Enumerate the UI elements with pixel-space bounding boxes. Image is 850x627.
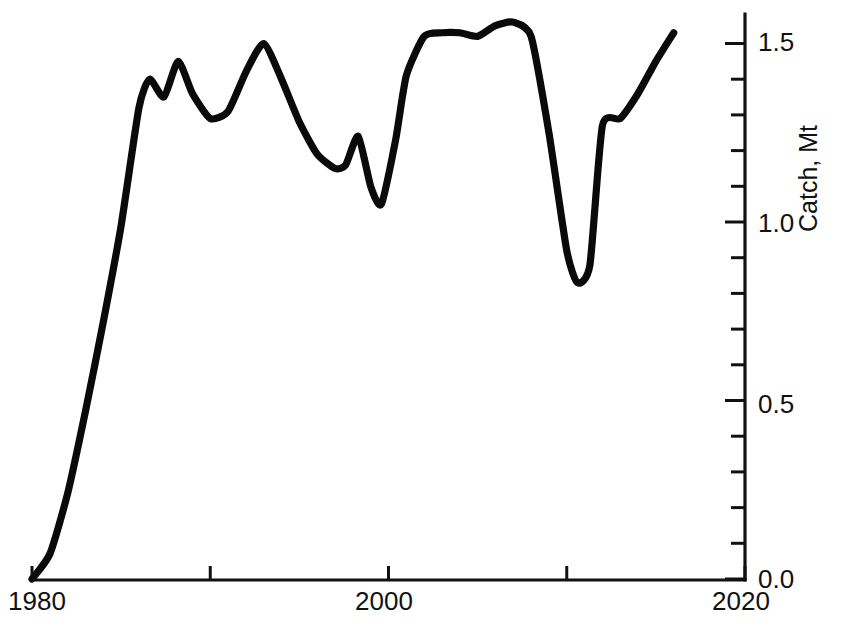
x-axis-ticks bbox=[32, 566, 745, 580]
x-tick-label-2000: 2000 bbox=[355, 588, 413, 614]
y-tick-label-1-0: 1.0 bbox=[758, 210, 794, 236]
y-tick-label-0-0: 0.0 bbox=[758, 566, 794, 592]
y-axis-ticks bbox=[725, 44, 745, 580]
chart-plot-area bbox=[0, 0, 850, 627]
chart-figure: 1980 2000 2020 0.0 0.5 1.0 1.5 Catch, Mt bbox=[0, 0, 850, 627]
y-tick-label-1-5: 1.5 bbox=[758, 29, 794, 55]
y-axis-title: Catch, Mt bbox=[796, 72, 821, 232]
catch-series-line bbox=[32, 22, 674, 579]
y-tick-label-0-5: 0.5 bbox=[758, 391, 794, 417]
series-group bbox=[32, 22, 674, 579]
x-tick-label-1980: 1980 bbox=[8, 588, 66, 614]
